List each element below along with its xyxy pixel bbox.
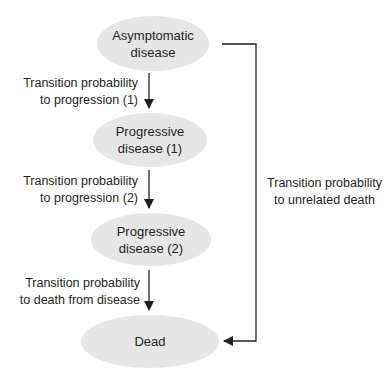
arrow-asymptomatic-to-dead: [222, 44, 256, 341]
node-label-line: Dead: [134, 333, 165, 350]
edge-label-line: Transition probability: [0, 173, 138, 190]
node-progressive-disease-1: Progressive disease (1): [93, 113, 207, 167]
node-asymptomatic-disease: Asymptomatic disease: [97, 16, 209, 71]
edge-label-line: to death from disease: [0, 292, 140, 309]
node-label-line: Asymptomatic: [112, 27, 194, 44]
node-label-line: disease: [112, 44, 194, 61]
edge-label-unrelated-death: Transition probability to unrelated deat…: [258, 175, 391, 209]
edge-label-progression-2: Transition probability to progression (2…: [0, 173, 138, 207]
edge-label-line: Transition probability: [0, 75, 138, 92]
edge-label-line: to progression (1): [0, 92, 138, 109]
node-label-line: disease (1): [116, 140, 185, 157]
edge-label-line: to unrelated death: [258, 192, 391, 209]
node-label-line: Progressive: [117, 223, 186, 240]
edge-label-death-from-disease: Transition probability to death from dis…: [0, 275, 140, 309]
edge-label-progression-1: Transition probability to progression (1…: [0, 75, 138, 109]
node-label-line: disease (2): [117, 240, 186, 257]
edge-label-line: Transition probability: [258, 175, 391, 192]
edge-label-line: Transition probability: [0, 275, 140, 292]
edge-label-line: to progression (2): [0, 190, 138, 207]
node-dead: Dead: [81, 315, 219, 368]
node-label-line: Progressive: [116, 123, 185, 140]
node-progressive-disease-2: Progressive disease (2): [91, 213, 211, 266]
diagram-canvas: Asymptomatic disease Progressive disease…: [0, 0, 391, 379]
